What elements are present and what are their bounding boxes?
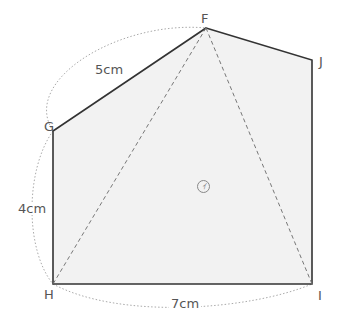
measure-gh: 4cm [18,202,46,215]
vertex-label-h: H [44,288,54,301]
geometry-figure: F J I H G 5cm 4cm 7cm ｲ [0,0,342,328]
vertex-label-f: F [201,12,208,25]
vertex-label-g: G [44,120,54,133]
measure-hi: 7cm [169,297,201,310]
region-label-i: ｲ [197,180,210,193]
figure-svg [0,0,342,328]
measure-fg: 5cm [95,63,123,76]
vertex-label-i: I [318,289,322,302]
vertex-label-j: J [319,55,323,68]
